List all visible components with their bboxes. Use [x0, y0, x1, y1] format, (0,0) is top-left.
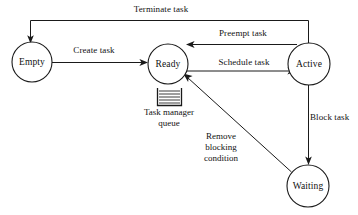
node-label-waiting: Waiting	[278, 181, 338, 191]
queue-caption-line-2: queue	[134, 118, 204, 129]
edge-label-terminate-task: Terminate task	[101, 4, 221, 14]
edge-label-remove-line-2: blocking	[191, 142, 251, 153]
node-label-active: Active	[279, 59, 339, 69]
edge-label-remove-line-1: Remove	[191, 131, 251, 142]
queue-icon	[158, 88, 182, 106]
edge-label-remove-line-3: condition	[191, 153, 251, 164]
edge-label-preempt-task: Preempt task	[207, 28, 279, 38]
edge-block-task	[305, 85, 312, 165]
edge-label-schedule-task: Schedule task	[206, 57, 282, 67]
edge-label-remove-blocking-condition: Remove blocking condition	[191, 131, 251, 164]
edge-preempt-task	[186, 41, 297, 48]
node-label-empty: Empty	[2, 57, 62, 67]
state-diagram: Empty Ready Active Waiting Terminate tas…	[0, 0, 358, 215]
edge-label-create-task: Create task	[64, 45, 124, 55]
edge-label-block-task: Block task	[310, 112, 358, 122]
edge-create-task	[52, 59, 148, 66]
queue-caption: Task manager queue	[134, 107, 204, 128]
queue-caption-line-1: Task manager	[134, 107, 204, 118]
node-label-ready: Ready	[138, 59, 198, 69]
